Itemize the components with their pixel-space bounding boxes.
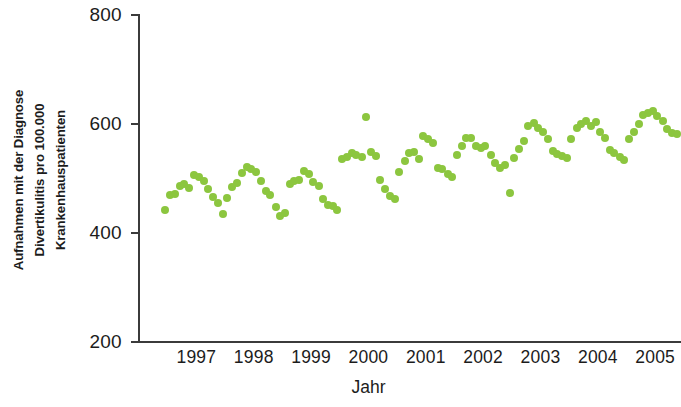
data-point	[161, 206, 169, 214]
data-point	[219, 210, 227, 218]
y-axis-tick-label: 400	[62, 222, 131, 244]
data-point	[625, 135, 633, 143]
data-point	[659, 117, 667, 125]
y-axis-tick-label: 800	[62, 4, 131, 26]
y-axis-title-line-2: Divertikulitis pro 100.000	[29, 90, 50, 271]
x-axis-tick-label: 2002	[463, 347, 503, 368]
data-point	[391, 195, 399, 203]
data-point	[376, 176, 384, 184]
data-point	[372, 152, 380, 160]
data-point	[630, 128, 638, 136]
data-point	[453, 151, 461, 159]
data-point	[305, 170, 313, 178]
data-point	[458, 142, 466, 150]
data-point	[467, 134, 475, 142]
data-point	[281, 209, 289, 217]
data-point	[295, 176, 303, 184]
data-point	[415, 155, 423, 163]
y-axis-title-line-1: Aufnahmen mit der Diagnose	[8, 90, 29, 271]
y-axis-tick-label: 200	[62, 331, 131, 353]
y-axis-tick-label: 600	[62, 113, 131, 135]
data-point	[487, 151, 495, 159]
data-point	[592, 118, 600, 126]
data-point	[448, 173, 456, 181]
data-point	[501, 161, 509, 169]
x-axis-title-text: Jahr	[351, 377, 385, 397]
data-point	[395, 168, 403, 176]
x-axis-tick-label: 2000	[349, 347, 389, 368]
chart-figure: Aufnahmen mit der Diagnose Divertikuliti…	[0, 0, 681, 407]
data-point	[620, 156, 628, 164]
data-point	[515, 145, 523, 153]
x-axis-tick-label: 2005	[635, 347, 675, 368]
data-point	[481, 142, 489, 150]
data-point	[567, 135, 575, 143]
data-point	[214, 199, 222, 207]
data-point	[401, 157, 409, 165]
data-point	[257, 177, 265, 185]
data-point	[429, 139, 437, 147]
data-point	[233, 179, 241, 187]
plot-area	[138, 15, 681, 342]
x-axis-tick-label: 1999	[291, 347, 331, 368]
x-axis-tick-label: 2003	[521, 347, 561, 368]
data-point	[635, 120, 643, 128]
data-point	[358, 153, 366, 161]
data-point	[544, 135, 552, 143]
data-point	[563, 154, 571, 162]
data-point	[223, 194, 231, 202]
x-axis-tick-label: 1998	[234, 347, 274, 368]
data-point	[252, 168, 260, 176]
x-axis-tick-label: 1997	[176, 347, 216, 368]
data-point	[601, 134, 609, 142]
data-point	[185, 184, 193, 192]
x-axis-tick-label: 2004	[578, 347, 618, 368]
data-point	[272, 203, 280, 211]
x-axis-title: Jahr	[0, 377, 681, 398]
data-point	[266, 191, 274, 199]
data-point	[315, 182, 323, 190]
data-point	[510, 154, 518, 162]
data-point	[520, 137, 528, 145]
data-point	[204, 185, 212, 193]
data-point	[362, 113, 370, 121]
data-point	[171, 190, 179, 198]
data-point	[506, 189, 514, 197]
data-point	[333, 206, 341, 214]
data-point	[200, 177, 208, 185]
x-axis-tick-label: 2001	[406, 347, 446, 368]
y-axis-title: Aufnahmen mit der Diagnose Divertikuliti…	[0, 0, 78, 360]
data-point	[673, 130, 681, 138]
